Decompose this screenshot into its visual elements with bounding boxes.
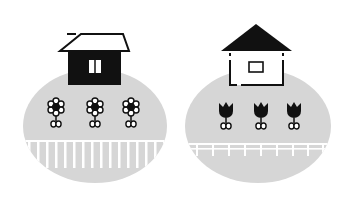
tulip-flower [287,102,301,129]
tulip-flower [254,102,268,129]
illustration-canvas [0,0,344,207]
tulip-flower [219,102,233,129]
house-roof-outline [60,34,129,51]
black-house [60,34,129,85]
daisy-flower [87,98,103,127]
left-scene [20,34,170,183]
daisy-row [48,98,139,127]
right-scene [180,24,335,183]
daisy-flower [48,98,64,127]
house-window [249,62,263,72]
house-roof [221,24,292,51]
outline-house [221,24,292,85]
daisy-flower [123,98,139,127]
tulip-row [219,102,301,129]
